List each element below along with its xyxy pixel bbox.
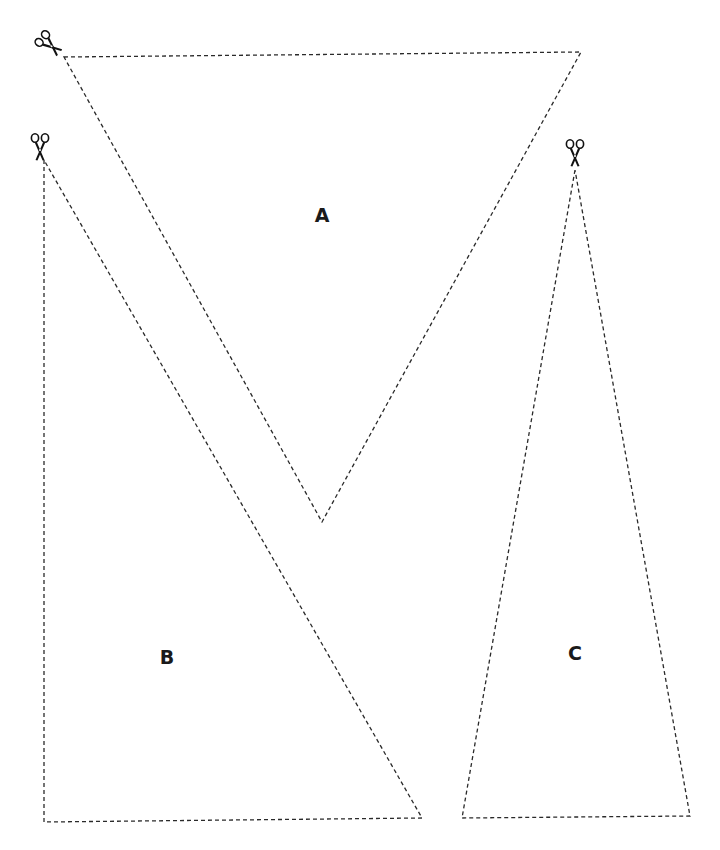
scissors-icon bbox=[34, 29, 66, 59]
scissors-icon bbox=[31, 134, 48, 161]
triangle-b-label: B bbox=[160, 646, 174, 668]
triangle-a-label: A bbox=[315, 204, 330, 226]
scissors-icon bbox=[566, 140, 583, 167]
triangle-b-outline bbox=[44, 160, 422, 822]
triangle-a: A bbox=[34, 29, 581, 522]
triangle-b: B bbox=[31, 134, 422, 822]
triangle-c: C bbox=[462, 140, 690, 818]
triangle-a-outline bbox=[64, 52, 581, 522]
triangle-c-outline bbox=[462, 170, 690, 818]
triangle-c-label: C bbox=[568, 642, 582, 664]
cut-out-worksheet: A B C bbox=[0, 0, 720, 850]
